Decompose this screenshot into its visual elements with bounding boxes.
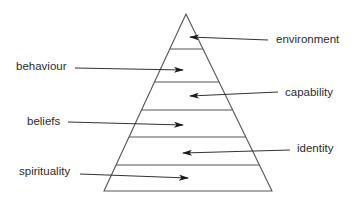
arrow-behaviour-icon: [75, 68, 183, 70]
pyramid-level-dividers: [116, 49, 259, 165]
label-capability: capability: [285, 87, 333, 99]
label-identity: identity: [297, 143, 333, 155]
arrow-identity-icon: [183, 150, 290, 153]
arrow-capability-icon: [190, 92, 278, 96]
arrow-spirituality-icon: [80, 174, 188, 178]
pyramid: [104, 14, 272, 191]
arrow-environment-icon: [190, 37, 268, 40]
arrow-beliefs-icon: [68, 122, 183, 125]
arrows: [68, 37, 290, 178]
label-beliefs: beliefs: [27, 116, 60, 128]
label-spirituality: spirituality: [19, 166, 70, 178]
pyramid-outline: [104, 14, 272, 191]
label-environment: environment: [276, 34, 339, 46]
label-behaviour: behaviour: [16, 61, 67, 73]
